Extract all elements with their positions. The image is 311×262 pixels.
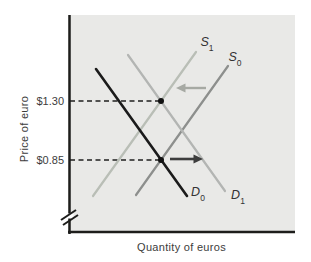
curve-label-d0: D0 [191,185,205,202]
curve-label-s0-sub: 0 [237,57,242,67]
supply-demand-figure: Price of euro Quantity of euros $1.30 $0… [0,0,311,262]
curve-label-s1-sub: 1 [209,42,214,52]
curve-label-s1: S1 [200,35,213,52]
curve-label-d1-sub: 1 [240,195,245,205]
x-axis-title: Quantity of euros [68,241,295,253]
curve-label-s0: S0 [228,50,241,67]
curve-label-d0-sub: 0 [200,192,205,202]
price-tick-label-high: $1.30 [26,93,64,109]
price-tick-label-low: $0.85 [26,152,64,168]
curve-label-d1-base: D [231,188,240,202]
chart-canvas [0,0,311,262]
curve-label-d1: D1 [231,188,245,205]
curve-label-d0-base: D [191,185,200,199]
